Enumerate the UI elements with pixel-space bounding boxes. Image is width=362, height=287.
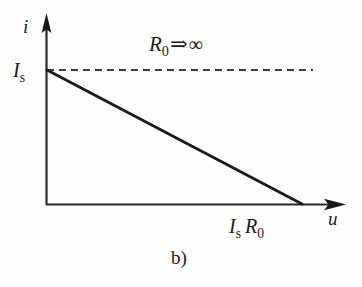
- y-intercept-base: I: [13, 59, 20, 81]
- figure-container: i u Is R0⇒∞ IsR0 b): [0, 0, 362, 287]
- x-intercept-second-base: R: [245, 215, 257, 237]
- figure-caption: b): [171, 248, 187, 267]
- x-axis-label: u: [328, 209, 338, 228]
- asymptote-annotation: R0⇒∞: [149, 34, 203, 58]
- x-intercept-first-base: I: [229, 215, 236, 237]
- double-arrow-icon: ⇒: [169, 32, 189, 56]
- asymptote-subscript: 0: [162, 43, 169, 59]
- x-intercept-second-subscript: 0: [257, 226, 264, 241]
- asymptote-base: R: [149, 32, 162, 56]
- infinity-icon: ∞: [189, 33, 203, 55]
- y-intercept-subscript: s: [20, 70, 25, 85]
- characteristic-line: [47, 70, 302, 204]
- x-intercept-first-subscript: s: [236, 226, 241, 241]
- x-intercept-label: IsR0: [229, 216, 264, 241]
- y-intercept-label: Is: [13, 60, 25, 85]
- y-axis-label: i: [23, 17, 28, 36]
